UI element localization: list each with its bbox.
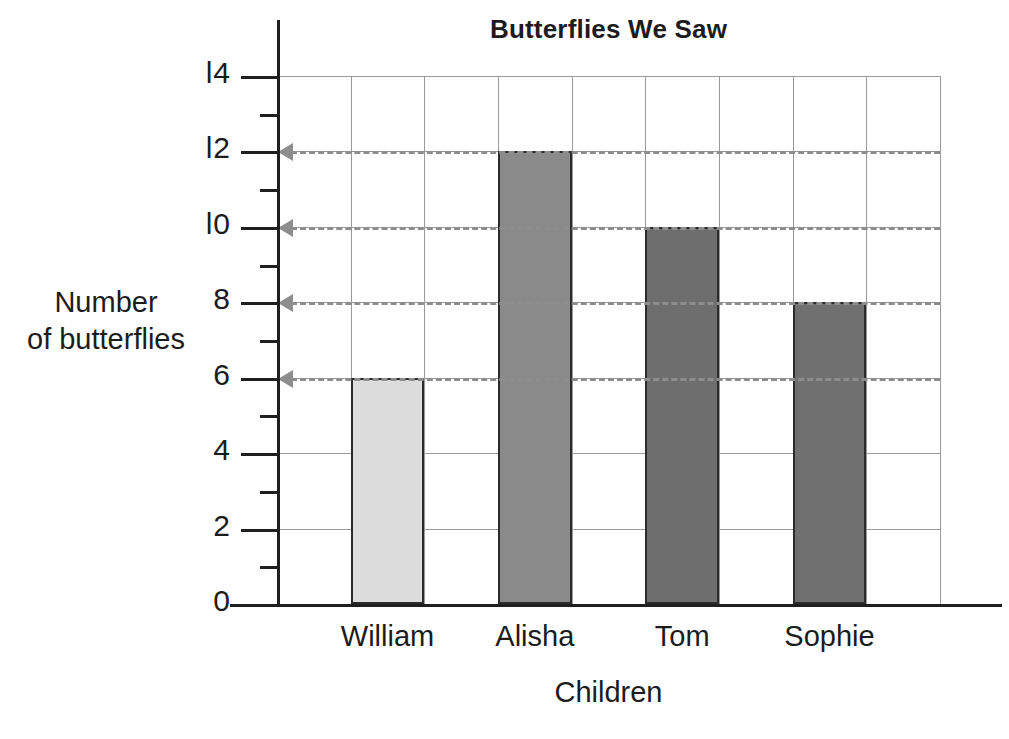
- y-tick-label-10: l0: [127, 207, 231, 241]
- y-tick-label-4: 4: [127, 433, 231, 467]
- gridline-v-8: [866, 76, 867, 604]
- y-tick-minor-3: [260, 491, 277, 494]
- y-tick-minor-13: [260, 114, 277, 117]
- arrow-to-8-line: [291, 302, 940, 305]
- y-tick-minor-5: [260, 415, 277, 418]
- x-axis-title: Children: [277, 676, 940, 709]
- y-axis-title-line-2: of butterflies: [8, 321, 204, 358]
- arrow-to-12-arrowhead: [278, 143, 293, 161]
- y-tick-major-14: [241, 76, 277, 79]
- y-tick-major-10: [241, 227, 277, 230]
- y-tick-major-2: [241, 529, 277, 532]
- y-axis-title: Number of butterflies: [8, 284, 204, 358]
- y-tick-major-4: [241, 453, 277, 456]
- y-tick-label-2: 2: [127, 509, 231, 543]
- chart-title: Butterflies We Saw: [277, 14, 940, 45]
- y-tick-label-14: l4: [127, 56, 231, 90]
- y-tick-minor-1: [260, 566, 277, 569]
- x-tick-label-sophie: Sophie: [730, 620, 930, 653]
- y-tick-major-8: [241, 302, 277, 305]
- arrow-to-10-arrowhead: [278, 219, 293, 237]
- bar-william: [351, 378, 425, 604]
- y-tick-major-0: [241, 604, 277, 607]
- arrow-to-6-arrowhead: [278, 370, 293, 388]
- bar-tom: [645, 227, 719, 604]
- y-tick-label-0: 0: [127, 584, 231, 618]
- gridline-h-14: [277, 76, 940, 77]
- x-axis-line: [230, 604, 1002, 607]
- plot-area: [277, 76, 940, 604]
- y-tick-minor-11: [260, 189, 277, 192]
- y-tick-major-12: [241, 151, 277, 154]
- y-axis-title-line-1: Number: [8, 284, 204, 321]
- arrow-to-6-line: [291, 378, 940, 381]
- arrow-to-10-line: [291, 227, 940, 230]
- gridline-v-6: [719, 76, 720, 604]
- y-tick-major-6: [241, 378, 277, 381]
- gridline-v-9: [940, 76, 941, 604]
- y-tick-minor-7: [260, 340, 277, 343]
- arrow-to-8-arrowhead: [278, 294, 293, 312]
- gridline-v-4: [572, 76, 573, 604]
- y-tick-minor-9: [260, 265, 277, 268]
- y-axis-line: [277, 20, 280, 606]
- bar-sophie: [793, 302, 867, 604]
- arrow-to-12-line: [291, 151, 940, 154]
- bar-chart: Butterflies We Saw 02468l0l2l4 WilliamAl…: [0, 0, 1009, 739]
- y-tick-label-6: 6: [127, 358, 231, 392]
- y-tick-label-12: l2: [127, 131, 231, 165]
- gridline-v-2: [424, 76, 425, 604]
